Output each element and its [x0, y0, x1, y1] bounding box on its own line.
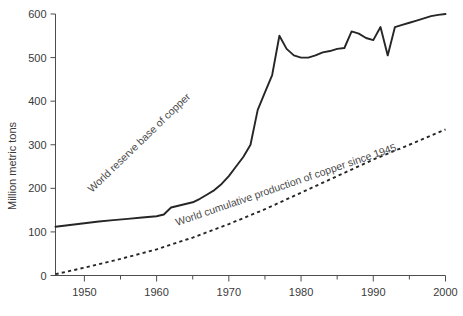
y-tick-label: 100 — [28, 226, 46, 238]
x-tick-label: 1990 — [361, 286, 385, 298]
y-tick-label: 600 — [28, 8, 46, 20]
x-tick-label: 2000 — [433, 286, 457, 298]
y-tick-label: 300 — [28, 139, 46, 151]
x-tick-label: 1970 — [217, 286, 241, 298]
y-axis-title: Million metric tons — [6, 121, 18, 210]
x-tick-label: 1950 — [72, 286, 96, 298]
x-axis-tick-labels: 195019601970198019902000 — [72, 286, 458, 298]
chart-figure: 0100200300400500600 19501960197019801990… — [0, 0, 463, 316]
annotation-cumulative-production: World cumulative production of copper si… — [174, 141, 398, 228]
copper-reserves-line-chart: 0100200300400500600 19501960197019801990… — [0, 0, 463, 316]
y-tick-label: 500 — [28, 52, 46, 64]
y-axis-tick-labels: 0100200300400500600 — [28, 8, 46, 282]
y-axis-ticks — [51, 14, 56, 276]
x-axis-minor-ticks — [121, 276, 410, 280]
x-tick-label: 1980 — [289, 286, 313, 298]
x-tick-label: 1960 — [144, 286, 168, 298]
y-tick-label: 0 — [40, 270, 46, 282]
y-tick-label: 400 — [28, 95, 46, 107]
y-tick-label: 200 — [28, 182, 46, 194]
annotation-reserve-base: World reserve base of copper — [85, 90, 193, 195]
